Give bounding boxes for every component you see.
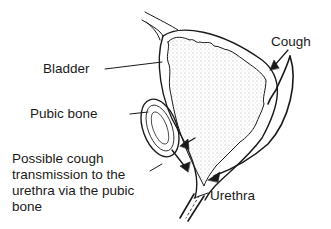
label-urethra: Urethra (210, 188, 255, 203)
pubic-bone-ring-2 (148, 110, 173, 147)
leader-pubic-bone (130, 112, 148, 114)
label-possible-transmission: Possible cough transmission to the ureth… (12, 151, 167, 215)
label-cough: Cough (271, 34, 311, 49)
leader-bladder (105, 62, 162, 69)
cough-curve-inner (268, 56, 290, 104)
label-bladder: Bladder (43, 61, 90, 76)
peritoneum-lines (142, 12, 178, 40)
label-pubic-bone: Pubic bone (30, 106, 98, 121)
transmission-arrow-bone-to-urethra-head (180, 162, 190, 172)
